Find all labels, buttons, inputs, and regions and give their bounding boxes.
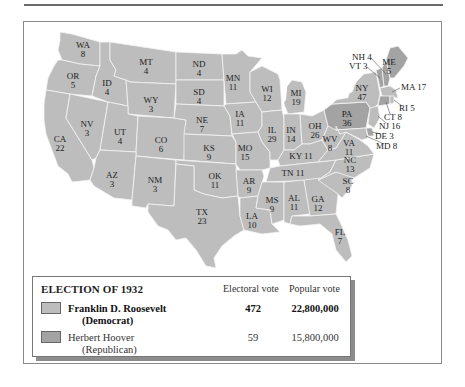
popular-vote-roosevelt: 22,800,000 [285,303,345,314]
legend-header-electoral: Electoral vote [223,283,279,294]
candidate-hoover: Herbert Hoover (Republican) [68,332,137,356]
electoral-vote-roosevelt: 472 [229,303,277,314]
state-RI [390,96,394,104]
swatch-democrat [41,302,61,314]
callout-DE: DE 3 [375,131,394,141]
state-label-TN: TN 11 [282,168,305,178]
callout-VT: VT 3 [349,61,368,71]
state-label-WI: WI12 [261,84,273,103]
candidate-roosevelt: Franklin D. Roosevelt (Democrat) [68,303,166,327]
state-label-IN: IN14 [286,125,296,144]
state-label-PA: PA36 [342,109,353,128]
state-CT [378,96,390,106]
state-label-MI: MI19 [291,88,302,107]
state-label-IL: IL29 [268,125,278,144]
state-label-NC: NC13 [344,155,357,174]
popular-vote-hoover: 15,800,000 [285,332,345,343]
candidate-name: Herbert Hoover [68,332,134,343]
state-FL [290,214,352,262]
candidate-party: (Democrat) [68,315,166,327]
state-label-IA: IA11 [235,109,245,128]
legend-title: ELECTION OF 1932 [41,283,143,295]
callout-MA: MA 17 [401,82,427,92]
state-label-KY: KY 11 [289,151,313,161]
callout-NJ: NJ 16 [379,121,401,131]
candidate-party: (Republican) [68,344,137,356]
callout-MD: MD 8 [376,141,398,151]
candidate-name: Franklin D. Roosevelt [68,303,166,314]
swatch-republican [41,331,61,343]
electoral-vote-hoover: 59 [229,332,277,343]
legend-header-popular: Popular vote [289,283,340,294]
legend-box: ELECTION OF 1932 Electoral vote Popular … [32,276,351,357]
state-label-AL: AL11 [288,193,300,212]
